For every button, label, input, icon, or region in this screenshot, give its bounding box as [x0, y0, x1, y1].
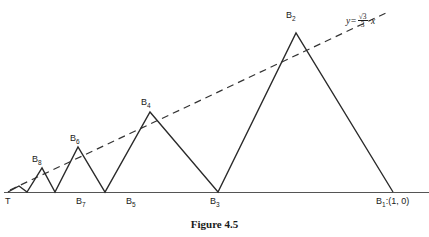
equation-equals: =: [350, 16, 356, 26]
point-label-b6-sub: 6: [76, 138, 80, 145]
point-label-b5-sub: 5: [132, 201, 136, 208]
point-label-b7: B7: [76, 197, 86, 208]
point-label-b3: B3: [210, 197, 220, 208]
reference-line-dashed: [10, 12, 388, 190]
equation-denominator: 3: [358, 20, 368, 29]
point-label-b1-coords: :(1, 0): [386, 196, 410, 206]
point-label-b2: B2: [286, 11, 296, 22]
figure-container: T B8 B7 B6 B5 B4 B3 B2 B1:(1, 0) y=√33·x…: [0, 0, 429, 237]
equation-variable: x: [371, 16, 375, 26]
point-label-b3-sub: 3: [216, 201, 220, 208]
point-label-t-text: T: [5, 196, 11, 206]
point-label-b6: B6: [70, 134, 80, 145]
point-label-b4-sub: 4: [147, 102, 151, 109]
equation-fraction: √33: [358, 13, 368, 30]
point-label-t: T: [5, 197, 11, 206]
point-label-b8-sub: 8: [38, 159, 42, 166]
point-label-b4: B4: [141, 98, 151, 109]
zigzag-polyline: [8, 33, 393, 192]
line-equation-label: y=√33·x: [346, 13, 375, 30]
point-label-b5: B5: [126, 197, 136, 208]
point-label-b1: B1:(1, 0): [376, 197, 409, 208]
point-label-b2-sub: 2: [292, 15, 296, 22]
figure-caption: Figure 4.5: [0, 219, 429, 230]
equation-numerator: √3: [358, 13, 368, 21]
point-label-b8: B8: [32, 155, 42, 166]
point-label-b7-sub: 7: [82, 201, 86, 208]
